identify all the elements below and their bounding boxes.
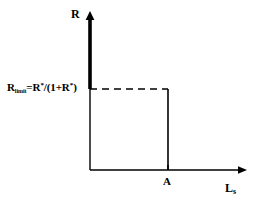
rlimit-formula-label: Rlimit=R*/(1+R*) (7, 82, 77, 94)
x-axis-label: Ls (225, 182, 236, 196)
rlimit-prefix: R (7, 81, 15, 93)
rlimit-equals: =R (26, 81, 40, 93)
point-a-label: A (163, 176, 171, 187)
rlimit-subscript: limit (15, 88, 27, 94)
y-axis-label: R (71, 8, 80, 20)
x-axis-label-base: L (225, 181, 233, 195)
plot-canvas (0, 0, 258, 204)
step-function-figure: R Ls A Rlimit=R*/(1+R*) (0, 0, 258, 204)
rlimit-middle: /(1+R (44, 81, 70, 93)
rlimit-suffix: ) (73, 81, 77, 93)
arrow-right-icon (238, 166, 247, 174)
x-axis-label-subscript: s (233, 187, 236, 196)
arrow-up-icon (86, 11, 95, 20)
